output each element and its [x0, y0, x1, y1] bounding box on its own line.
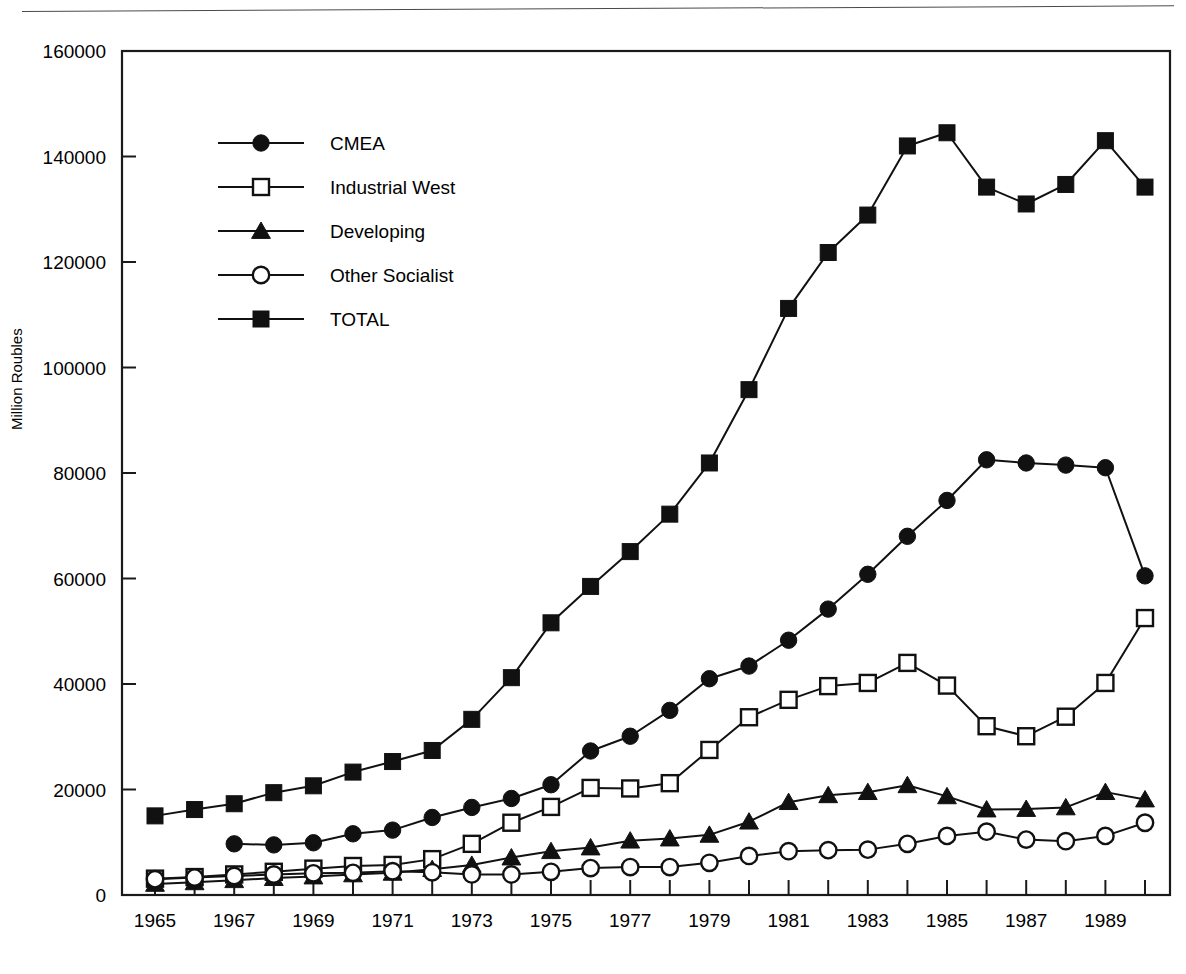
x-tick-label: 1977	[609, 910, 651, 931]
x-tick-label: 1967	[213, 910, 255, 931]
data-point-marker	[622, 544, 638, 560]
data-point-marker	[147, 808, 163, 824]
legend-item-cmea[interactable]: CMEA	[218, 133, 385, 154]
data-point-marker	[1097, 133, 1113, 149]
data-point-marker	[345, 826, 361, 842]
data-point-marker	[226, 868, 242, 884]
legend-label: TOTAL	[330, 309, 389, 330]
data-point-marker	[860, 675, 876, 691]
data-point-marker	[1056, 798, 1075, 814]
data-point-marker	[899, 138, 915, 154]
legend-item-industrial-west[interactable]: Industrial West	[218, 177, 456, 198]
data-point-marker	[860, 566, 876, 582]
data-point-marker	[1058, 176, 1074, 192]
data-point-marker	[899, 655, 915, 671]
y-tick-label: 120000	[43, 252, 106, 273]
y-tick-label: 160000	[43, 41, 106, 62]
data-point-marker	[899, 528, 915, 544]
x-tick-label: 1975	[530, 910, 572, 931]
data-point-marker	[582, 743, 598, 759]
data-point-marker	[820, 842, 836, 858]
x-tick-label: 1987	[1005, 910, 1047, 931]
data-point-marker	[464, 799, 480, 815]
data-point-marker	[701, 671, 717, 687]
data-point-marker	[622, 859, 638, 875]
data-point-marker	[741, 709, 757, 725]
data-point-marker	[1018, 831, 1034, 847]
data-point-marker	[741, 848, 757, 864]
data-point-marker	[503, 670, 519, 686]
data-point-marker	[820, 678, 836, 694]
data-point-marker	[978, 452, 994, 468]
data-point-marker	[305, 778, 321, 794]
data-point-marker	[700, 826, 719, 842]
data-point-marker	[1058, 709, 1074, 725]
data-point-marker	[780, 632, 796, 648]
x-tick-label: 1969	[292, 910, 334, 931]
data-point-marker	[622, 728, 638, 744]
data-point-marker	[701, 855, 717, 871]
data-point-marker	[701, 742, 717, 758]
data-point-marker	[503, 790, 519, 806]
data-point-marker	[345, 764, 361, 780]
data-point-marker	[1096, 783, 1115, 799]
data-point-marker	[781, 692, 797, 708]
data-point-marker	[1137, 179, 1153, 195]
legend-item-other-socialist[interactable]: Other Socialist	[218, 265, 454, 286]
x-axis-ticks: 1965196719691971197319751977197919811983…	[134, 880, 1145, 931]
data-point-marker	[583, 578, 599, 594]
data-point-marker	[939, 125, 955, 141]
data-point-marker	[1018, 196, 1034, 212]
data-point-marker	[1018, 455, 1034, 471]
data-point-marker	[384, 863, 400, 879]
data-point-marker	[253, 135, 269, 151]
data-point-marker	[464, 836, 480, 852]
data-point-marker	[662, 859, 678, 875]
data-point-marker	[740, 813, 759, 829]
y-tick-label: 40000	[53, 674, 106, 695]
data-point-marker	[781, 300, 797, 316]
y-tick-label: 100000	[43, 358, 106, 379]
data-point-marker	[979, 179, 995, 195]
data-point-marker	[253, 267, 269, 283]
data-point-marker	[253, 179, 269, 195]
data-point-marker	[424, 742, 440, 758]
data-point-marker	[820, 245, 836, 261]
data-point-marker	[543, 615, 559, 631]
data-point-marker	[305, 835, 321, 851]
data-point-marker	[939, 492, 955, 508]
data-point-marker	[662, 702, 678, 718]
x-tick-label: 1973	[451, 910, 493, 931]
data-series-group	[146, 125, 1155, 892]
data-point-marker	[1137, 815, 1153, 831]
data-point-marker	[543, 799, 559, 815]
x-tick-label: 1983	[847, 910, 889, 931]
plot-frame	[122, 51, 1170, 895]
data-point-marker	[543, 864, 559, 880]
data-point-marker	[898, 776, 917, 792]
data-point-marker	[424, 809, 440, 825]
chart-canvas: 0200004000060000800001000001200001400001…	[0, 0, 1186, 974]
data-point-marker	[1137, 568, 1153, 584]
data-point-marker	[622, 780, 638, 796]
legend-item-total[interactable]: TOTAL	[218, 309, 389, 330]
y-tick-label: 80000	[53, 463, 106, 484]
data-point-marker	[1137, 610, 1153, 626]
series-industrial-west	[147, 610, 1153, 887]
data-point-marker	[741, 658, 757, 674]
data-point-marker	[253, 311, 269, 327]
y-tick-label: 140000	[43, 147, 106, 168]
data-point-marker	[899, 836, 915, 852]
data-point-marker	[147, 871, 163, 887]
data-point-marker	[266, 866, 282, 882]
legend-label: Other Socialist	[330, 265, 454, 286]
legend-item-developing[interactable]: Developing	[218, 221, 425, 242]
x-tick-label: 1979	[688, 910, 730, 931]
data-point-marker	[820, 601, 836, 617]
y-axis-label: Million Roubles	[8, 328, 25, 430]
data-point-marker	[978, 824, 994, 840]
y-tick-label: 60000	[53, 569, 106, 590]
y-tick-label: 20000	[53, 780, 106, 801]
data-point-marker	[1097, 675, 1113, 691]
data-point-marker	[385, 754, 401, 770]
